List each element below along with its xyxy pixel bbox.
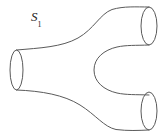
left-opening-ellipse [10,50,23,90]
bottom-outline-path [17,90,150,131]
surface-diagram-svg [0,0,166,137]
surface-label-subscript: 1 [38,20,42,29]
surface-figure: S1 [0,0,166,137]
top-right-opening-ellipse [141,7,157,45]
surface-label-base: S [31,9,38,24]
surface-label-s1: S1 [31,10,42,27]
bottom-right-opening-ellipse [141,92,157,130]
inner-notch-path [94,45,149,95]
